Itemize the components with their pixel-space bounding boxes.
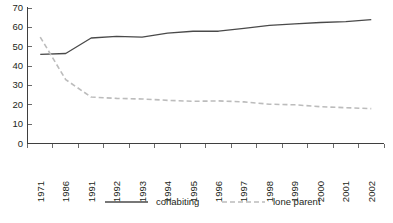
y-tick-label: 10 [12,118,23,129]
x-tick-label: 1971 [35,181,46,202]
y-tick-label: 70 [12,2,23,13]
x-tick-label: 1992 [111,181,122,202]
series-line-cohabiting [40,20,371,55]
x-tick-label: 1993 [137,181,148,202]
x-tick-label: 2001 [340,181,351,202]
series-lines [40,20,371,109]
x-tick-label: 1986 [60,181,71,202]
x-tick-label: 1991 [86,181,97,202]
y-tick-label: 30 [12,79,23,90]
x-tick-label: 1997 [238,181,249,202]
y-tick-label: 60 [12,21,23,32]
legend-label-lone-parent: lone parent [273,196,321,207]
x-axis-tick-labels: 1971198619911992199319941995199619971998… [35,181,377,202]
y-tick-label: 20 [12,99,23,110]
y-axis-tick-marks [28,8,32,144]
chart-canvas: 706050403020100 197119861991199219931994… [0,0,393,223]
line-chart: 706050403020100 197119861991199219931994… [0,0,393,223]
legend-label-cohabiting: cohabiting [156,196,199,207]
y-tick-label: 40 [12,60,23,71]
series-line-lone-parent [40,37,371,109]
y-tick-label: 50 [12,41,23,52]
y-tick-label: 0 [18,138,23,149]
y-axis-tick-labels: 706050403020100 [12,2,23,149]
x-axis-tick-marks [28,144,385,149]
x-tick-label: 1996 [213,181,224,202]
x-tick-label: 2002 [366,181,377,202]
